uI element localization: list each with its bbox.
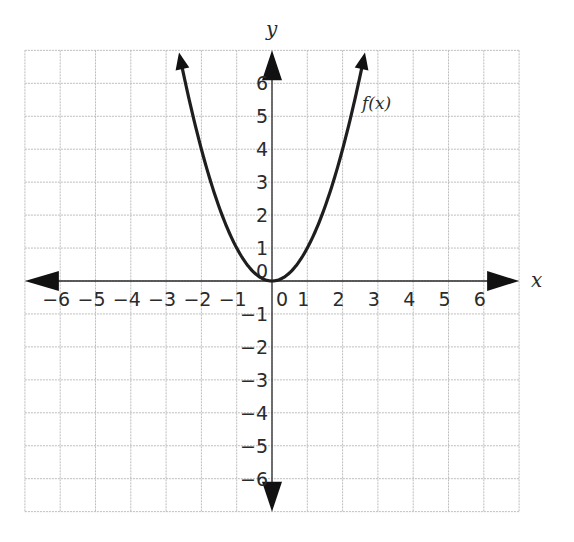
x-tick-label: −3	[148, 288, 176, 310]
y-tick-label: 5	[256, 105, 268, 127]
y-tick-label: −6	[240, 468, 268, 490]
x-tick-label: 1	[297, 288, 309, 310]
y-tick-label: 6	[256, 72, 268, 94]
y-tick-label: −5	[240, 435, 268, 457]
x-tick-label: 2	[333, 288, 345, 310]
x-axis-right-arrow-icon	[487, 271, 519, 291]
coordinate-plane: −6−5−4−3−2−10123456−6−5−4−3−2−11234560 x…	[0, 0, 574, 542]
y-axis-label: y	[265, 17, 278, 41]
x-tick-label: 3	[368, 288, 380, 310]
y-tick-label: 2	[256, 204, 268, 226]
y-tick-label: −4	[240, 402, 268, 424]
x-tick-label: 5	[438, 288, 450, 310]
curve-right-arrow-icon	[355, 52, 369, 70]
x-tick-label: −5	[77, 288, 105, 310]
x-tick-label: 0	[276, 288, 288, 310]
x-tick-label: 6	[474, 288, 486, 310]
y-tick-label: −1	[240, 303, 268, 325]
x-axis-label: x	[531, 268, 542, 292]
curve-left-arrow-icon	[176, 52, 190, 70]
x-tick-label: 4	[403, 288, 415, 310]
y-tick-label: −3	[240, 369, 268, 391]
x-tick-label: −2	[183, 288, 211, 310]
y-tick-label: 3	[256, 171, 268, 193]
x-tick-label: −4	[113, 288, 141, 310]
x-tick-label: −6	[42, 288, 70, 310]
y-tick-label: 4	[256, 138, 268, 160]
function-label: f(x)	[360, 93, 391, 113]
y-tick-label: −2	[240, 336, 268, 358]
y-tick-label: 1	[256, 237, 268, 259]
